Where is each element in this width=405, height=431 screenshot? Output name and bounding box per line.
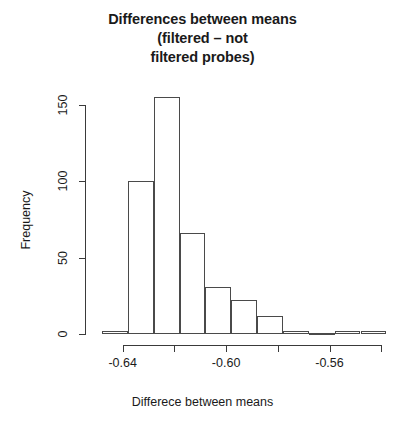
y-axis-tick-150: [79, 105, 86, 106]
histogram-bar-1: [102, 331, 128, 334]
histogram-bar-9: [309, 333, 335, 335]
y-axis-tick-100: [79, 181, 86, 182]
plot-panel: 150 100 50 0 -0.64 -0.60 -0.56: [0, 0, 405, 431]
x-axis-label-minus060: -0.60: [212, 356, 241, 370]
histogram-bar-10: [335, 331, 361, 334]
histogram-bar-3: [154, 97, 180, 334]
x-axis-tick-2: [174, 345, 175, 352]
y-axis-title: Frequency: [14, 160, 38, 280]
histogram-bar-4: [180, 233, 206, 334]
x-axis-tick-4: [278, 345, 279, 352]
x-axis-label-minus064: -0.64: [108, 356, 137, 370]
x-axis-line: [123, 345, 382, 346]
histogram-bar-8: [283, 331, 309, 334]
histogram-bar-7: [257, 316, 283, 334]
histogram-plot: Differences between means (filtered – no…: [0, 0, 405, 431]
x-axis-tick-1: [123, 345, 124, 352]
histogram-bar-5: [205, 287, 231, 334]
histogram-bar-6: [231, 300, 257, 334]
histogram-bar-2: [128, 181, 154, 334]
x-axis-tick-6: [381, 345, 382, 352]
x-axis-tick-3: [226, 345, 227, 352]
histogram-bar-11: [361, 331, 387, 334]
x-axis-label-minus056: -0.56: [315, 356, 344, 370]
y-axis-line: [85, 105, 86, 334]
x-axis-tick-5: [330, 345, 331, 352]
x-axis-title: Differece between means: [0, 395, 405, 409]
y-axis-tick-50: [79, 258, 86, 259]
y-axis-tick-0: [79, 334, 86, 335]
